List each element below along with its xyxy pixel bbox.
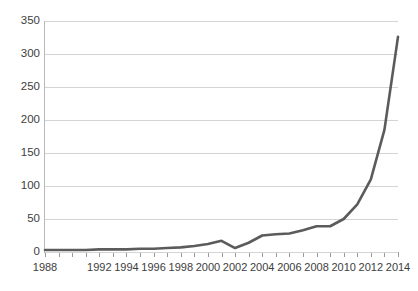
- series-layer: [0, 0, 418, 291]
- line-chart: 050100150200250300350 198819921994199619…: [0, 0, 418, 291]
- series-line-1: [45, 37, 398, 250]
